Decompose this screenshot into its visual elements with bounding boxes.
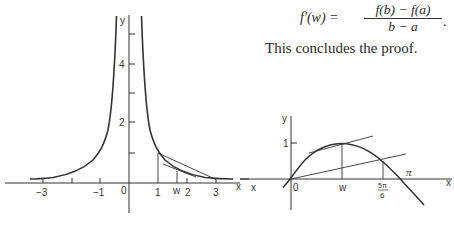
- sine-curve: [283, 144, 424, 206]
- curve-left-branch: [30, 16, 117, 179]
- y-tick-4: 4: [119, 59, 125, 70]
- x-tick-0: 0: [121, 185, 127, 196]
- frac-denominator-6: 6: [380, 191, 385, 200]
- x-tick-3: 3: [213, 187, 219, 198]
- curve-right-branch: [142, 16, 234, 179]
- x-tick-1: 1: [155, 187, 161, 198]
- pi-label: π: [406, 166, 412, 178]
- y-tick-2: 2: [119, 117, 125, 128]
- left-edge-x-label: x: [251, 182, 256, 193]
- x-tick-w: w: [172, 185, 181, 196]
- secant-line: [158, 153, 216, 180]
- x-tick-0-right: 0: [293, 182, 299, 193]
- x-tick-neg1: −1: [93, 187, 105, 198]
- x-tick-2: 2: [185, 187, 191, 198]
- right-figure-labels: x y 1 0 w 5π 6 π x x: [236, 113, 451, 200]
- left-figure-labels: y 4 2 −3 −1 0 1 w 2 3: [36, 15, 219, 198]
- tangent-line: [163, 164, 196, 177]
- tangent-line-right: [309, 136, 373, 153]
- y-tick-1: 1: [283, 138, 289, 149]
- left-y-label: y: [120, 15, 125, 26]
- figures: y 4 2 −3 −1 0 1 w 2 3 x y 1 0 w 5π 6 π x: [0, 0, 454, 226]
- right-y-label: y: [282, 113, 287, 124]
- frac-numerator-5pi: 5π: [378, 182, 387, 189]
- x-tick-w-right: w: [338, 182, 347, 193]
- left-figure: [5, 15, 240, 213]
- left-x-label: x: [236, 181, 241, 192]
- x-tick-neg3: −3: [36, 187, 48, 198]
- right-x-label: x: [446, 177, 451, 188]
- right-figure: [240, 116, 452, 210]
